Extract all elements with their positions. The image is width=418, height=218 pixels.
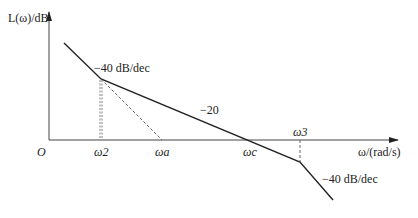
wa-label: ωa bbox=[155, 145, 169, 159]
slope-label-last: −40 dB/dec bbox=[322, 172, 378, 186]
y-axis-label: L(ω)/dB bbox=[8, 11, 49, 25]
w2-label: ω2 bbox=[94, 145, 108, 159]
slope-label-middle: −20 bbox=[200, 103, 219, 117]
w3-label: ω3 bbox=[293, 125, 307, 139]
wc-label: ωc bbox=[243, 145, 257, 159]
bode-diagram: L(ω)/dB O ω/(rad/s) ω2 ωa ωc ω3 −40 dB/d… bbox=[0, 0, 418, 218]
extension-line bbox=[101, 79, 162, 140]
slope-label-first: −40 dB/dec bbox=[94, 61, 150, 75]
origin-label: O bbox=[37, 145, 46, 159]
x-axis-label: ω/(rad/s) bbox=[358, 145, 401, 159]
